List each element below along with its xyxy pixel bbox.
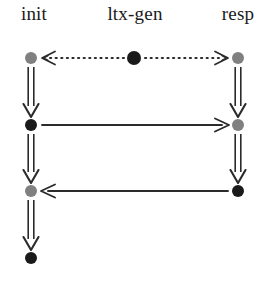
sequence-diagram-canvas: init ltx-gen resp bbox=[0, 0, 275, 287]
message-ltx-gen-to-resp bbox=[145, 52, 228, 65]
vertical-arrow-init-row1-row2 bbox=[24, 134, 39, 183]
diagram-graphics bbox=[0, 0, 275, 287]
message-ltx-gen-to-init bbox=[42, 52, 124, 65]
vertical-arrow-resp-row0-row1 bbox=[231, 67, 246, 117]
message-init-to-resp bbox=[42, 119, 229, 132]
vertical-arrow-resp-row1-row2 bbox=[231, 134, 246, 183]
message-resp-to-init bbox=[41, 185, 228, 198]
event-node-init-0[interactable] bbox=[25, 52, 37, 64]
event-node-ltx-gen-0[interactable] bbox=[127, 51, 141, 65]
event-node-init-3[interactable] bbox=[25, 252, 37, 264]
event-node-resp-0[interactable] bbox=[232, 52, 244, 64]
event-node-init-1[interactable] bbox=[25, 119, 37, 131]
event-node-init-2[interactable] bbox=[25, 185, 37, 197]
vertical-arrow-init-row0-row1 bbox=[24, 67, 39, 117]
vertical-arrow-init-row2-row3 bbox=[24, 200, 39, 250]
event-node-resp-2[interactable] bbox=[232, 185, 244, 197]
event-node-resp-1[interactable] bbox=[232, 119, 244, 131]
